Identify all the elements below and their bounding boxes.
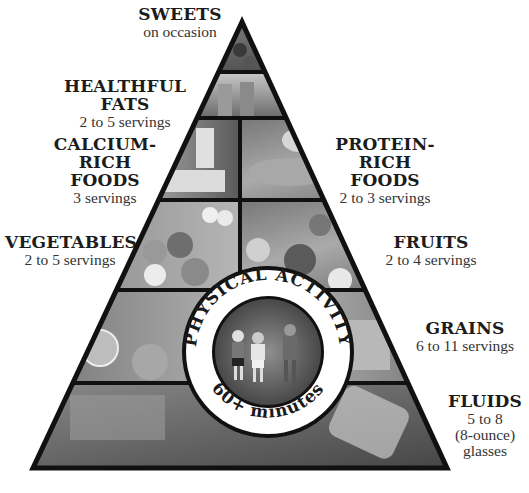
label-healthful-fats: HEALTHFUL FATS 2 to 5 servings xyxy=(40,78,210,130)
tier-title-line1: PROTEIN-RICH xyxy=(310,136,460,172)
tier-title: VEGETABLES xyxy=(5,234,135,252)
label-sweets: SWEETS on occasion xyxy=(120,6,240,40)
tier-servings: 2 to 3 servings xyxy=(310,190,460,206)
label-fluids: FLUIDS 5 to 8 (8-ounce) glasses xyxy=(440,393,529,460)
label-fruits: FRUITS 2 to 4 servings xyxy=(366,234,496,268)
tier-servings: 2 to 5 servings xyxy=(40,114,210,130)
tier-title: FRUITS xyxy=(366,234,496,252)
tier-title: HEALTHFUL FATS xyxy=(40,78,210,114)
tier-title-line1: CALCIUM-RICH xyxy=(30,136,180,172)
tier-servings: 6 to 11 servings xyxy=(405,338,525,354)
tier-servings: 2 to 5 servings xyxy=(5,252,135,268)
tier-title-line2: FOODS xyxy=(310,172,460,190)
label-grains: GRAINS 6 to 11 servings xyxy=(405,320,525,354)
tier-title: FLUIDS xyxy=(440,393,529,411)
tier-servings: on occasion xyxy=(120,24,240,40)
tier-title: SWEETS xyxy=(120,6,240,24)
label-vegetables: VEGETABLES 2 to 5 servings xyxy=(5,234,135,268)
label-calcium-rich-foods: CALCIUM-RICH FOODS 3 servings xyxy=(30,136,180,206)
tier-title-line2: FOODS xyxy=(30,172,180,190)
tier-servings-line3: glasses xyxy=(440,443,529,459)
tier-servings: 2 to 4 servings xyxy=(366,252,496,268)
label-protein-rich-foods: PROTEIN-RICH FOODS 2 to 3 servings xyxy=(310,136,460,206)
tier-title: GRAINS xyxy=(405,320,525,338)
tier-servings-line2: (8-ounce) xyxy=(440,427,529,443)
tier-servings: 3 servings xyxy=(30,190,180,206)
tier-servings-line1: 5 to 8 xyxy=(440,411,529,427)
physical-activity-badge: PHYSICAL ACTIVITY 60+ minutes xyxy=(180,264,356,438)
tier-sweets-photo xyxy=(0,22,529,72)
